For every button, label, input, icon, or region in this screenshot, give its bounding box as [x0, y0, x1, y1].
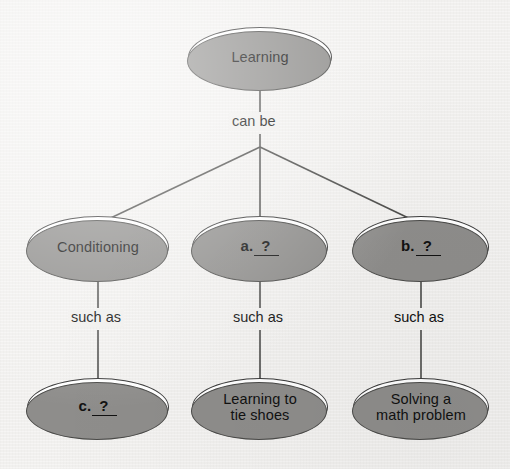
node-blank-a-label: a.?	[235, 238, 286, 257]
blank-a-answer-slot[interactable]: ?	[254, 238, 279, 257]
node-tie-shoes-label: Learning to tie shoes	[217, 391, 303, 423]
edge-label-such-as-right: such as	[391, 309, 447, 327]
connector-branch-right	[260, 147, 421, 224]
node-learning-to-tie-shoes[interactable]: Learning to tie shoes	[192, 378, 328, 436]
node-blank-b[interactable]: b.?	[353, 216, 489, 278]
edge-label-can-be: can be	[229, 113, 279, 131]
node-conditioning[interactable]: Conditioning	[27, 216, 169, 278]
node-blank-b-label: b.?	[395, 238, 447, 257]
blank-b-answer-slot[interactable]: ?	[416, 238, 441, 257]
node-conditioning-label: Conditioning	[51, 239, 145, 255]
node-learning-label: Learning	[225, 49, 294, 65]
edge-label-such-as-middle: such as	[230, 309, 286, 327]
node-blank-c-label: c.?	[73, 398, 124, 417]
node-blank-a[interactable]: a.?	[192, 216, 328, 278]
node-solving-a-math-problem[interactable]: Solving a math problem	[353, 378, 489, 436]
blank-c-prefix: c.	[79, 397, 92, 414]
blank-c-answer-slot[interactable]: ?	[92, 398, 117, 417]
edge-label-such-as-left: such as	[68, 309, 124, 327]
node-math-problem-label: Solving a math problem	[370, 391, 472, 423]
concept-map-diagram: Learning Conditioning a.? b.? c.? Learni…	[0, 0, 510, 469]
blank-a-prefix: a.	[241, 237, 254, 254]
connector-branch-left	[98, 147, 260, 224]
node-blank-c[interactable]: c.?	[27, 378, 169, 436]
node-learning[interactable]: Learning	[188, 27, 332, 87]
blank-b-prefix: b.	[401, 237, 415, 254]
